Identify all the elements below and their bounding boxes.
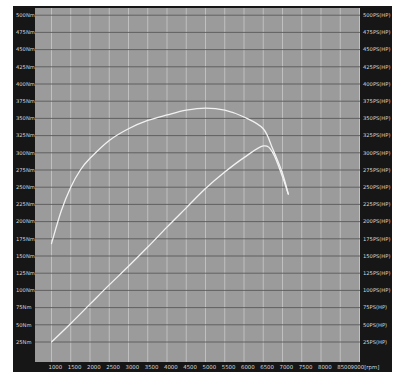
y-right-tick-label: 425PS(HP) (363, 64, 390, 70)
x-tick-label: 6500 (260, 364, 274, 370)
y-left-tick-label: 100Nm (16, 287, 35, 293)
y-left-tick-label: 125Nm (16, 270, 35, 276)
y-right-tick-label: 350PS(HP) (363, 115, 390, 121)
x-tick-label: 9000[rpm] (351, 364, 380, 371)
y-left-tick-label: 150Nm (16, 253, 35, 259)
y-left-tick-label: 500Nm (16, 12, 35, 18)
y-left-tick-label: 450Nm (16, 46, 35, 52)
y-left-tick-label: 400Nm (16, 81, 35, 87)
x-tick-label: 3000 (126, 364, 140, 370)
y-right-tick-label: 250PS(HP) (363, 184, 390, 190)
y-right-tick-label: 125PS(HP) (363, 270, 390, 276)
x-tick-label: 4000 (164, 364, 178, 370)
y-left-tick-label: 300Nm (16, 150, 35, 156)
y-right-tick-label: 200PS(HP) (363, 218, 390, 224)
y-left-tick-label: 250Nm (16, 184, 35, 190)
y-right-tick-label: 150PS(HP) (363, 253, 390, 259)
plot-area (35, 8, 360, 362)
x-tick-label: 7500 (299, 364, 313, 370)
y-right-tick-label: 50PS(HP) (363, 322, 387, 328)
y-left-tick-label: 25Nm (16, 339, 32, 345)
y-right-tick-label: 500PS(HP) (363, 12, 390, 18)
y-right-tick-label: 100PS(HP) (363, 287, 390, 293)
y-right-tick-label: 475PS(HP) (363, 29, 390, 35)
x-axis-labels: 1000150020002500300035004000450050005500… (49, 364, 380, 371)
y-right-tick-label: 300PS(HP) (363, 150, 390, 156)
y-left-tick-label: 200Nm (16, 218, 35, 224)
y-left-tick-label: 75Nm (16, 304, 32, 310)
y-left-tick-label: 375Nm (16, 98, 35, 104)
x-tick-label: 6000 (241, 364, 255, 370)
y-left-tick-label: 275Nm (16, 167, 35, 173)
y-right-tick-label: 450PS(HP) (363, 46, 390, 52)
y-right-tick-label: 325PS(HP) (363, 132, 390, 138)
y-right-tick-label: 175PS(HP) (363, 236, 390, 242)
x-tick-label: 7000 (280, 364, 294, 370)
dyno-chart: 25Nm50Nm75Nm100Nm125Nm150Nm175Nm200Nm225… (0, 0, 406, 388)
x-tick-label: 5500 (222, 364, 236, 370)
x-tick-label: 2500 (106, 364, 120, 370)
y-left-tick-label: 325Nm (16, 132, 35, 138)
x-tick-label: 4500 (183, 364, 197, 370)
y-axis-right-labels: 25PS(HP)50PS(HP)75PS(HP)100PS(HP)125PS(H… (363, 12, 390, 345)
y-left-tick-label: 350Nm (16, 115, 35, 121)
y-left-tick-label: 50Nm (16, 322, 32, 328)
x-tick-label: 8000 (318, 364, 332, 370)
y-left-tick-label: 175Nm (16, 236, 35, 242)
y-left-tick-label: 425Nm (16, 64, 35, 70)
y-right-tick-label: 275PS(HP) (363, 167, 390, 173)
x-tick-label: 3500 (145, 364, 159, 370)
x-tick-label: 1500 (68, 364, 82, 370)
y-right-tick-label: 75PS(HP) (363, 304, 387, 310)
x-tick-label: 1000 (49, 364, 63, 370)
x-tick-label: 2000 (87, 364, 101, 370)
x-tick-label: 5000 (203, 364, 217, 370)
y-right-tick-label: 25PS(HP) (363, 339, 387, 345)
y-right-tick-label: 375PS(HP) (363, 98, 390, 104)
x-tick-label: 8500 (337, 364, 351, 370)
y-left-tick-label: 225Nm (16, 201, 35, 207)
y-axis-left-labels: 25Nm50Nm75Nm100Nm125Nm150Nm175Nm200Nm225… (16, 12, 35, 345)
y-left-tick-label: 475Nm (16, 29, 35, 35)
y-right-tick-label: 225PS(HP) (363, 201, 390, 207)
y-right-tick-label: 400PS(HP) (363, 81, 390, 87)
